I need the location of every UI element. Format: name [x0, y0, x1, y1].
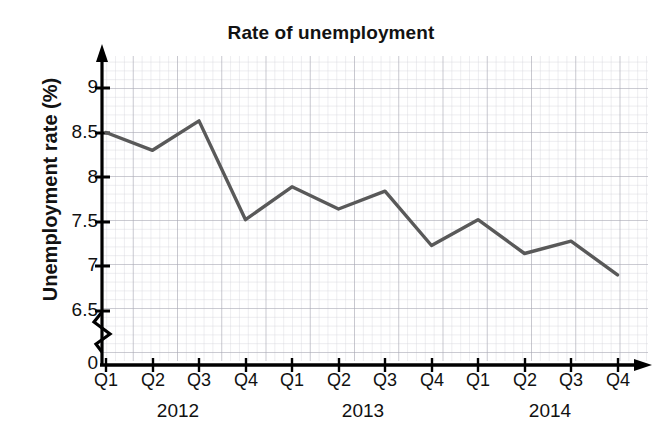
plot-grid [103, 56, 648, 361]
unemployment-line-chart: Rate of unemployment Unemployment rate (… [0, 0, 662, 445]
chart-canvas [0, 0, 662, 445]
